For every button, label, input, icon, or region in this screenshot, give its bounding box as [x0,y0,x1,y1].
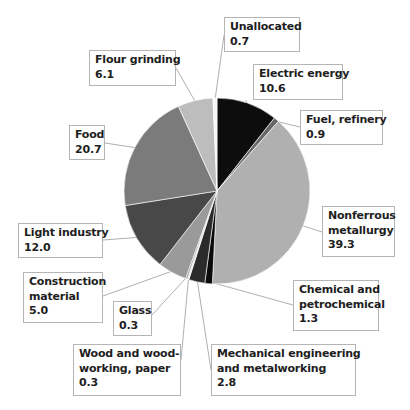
label-value: 0.9 [306,128,378,143]
label-text: petrochemical [299,298,374,313]
label-text: Flour grinding [95,53,171,68]
label-value: 20.7 [75,143,100,158]
leader-line-nonferrous-metallurgy [301,225,322,232]
label-value: 0.7 [230,35,295,50]
label-value: 0.3 [79,376,176,391]
label-text: Electric energy [259,67,338,82]
label-value: 5.0 [29,304,98,319]
label-text: metallurgy [328,224,390,239]
label-text: Food [75,128,100,143]
label-value: 0.3 [119,319,147,334]
leader-line-food [105,143,137,148]
label-construction-material: Constructionmaterial5.0 [23,272,103,323]
label-glass: Glass0.3 [113,301,152,336]
label-text: Light industry [24,226,98,241]
leader-line-mechanical-engineering-and-metalworking [197,280,211,370]
label-nonferrous-metallurgy: Nonferrousmetallurgy39.3 [322,206,395,257]
label-value: 10.6 [259,82,338,97]
label-text: and metalworking [217,362,351,377]
label-value: 2.8 [217,376,351,391]
label-text: Fuel, refinery [306,113,378,128]
leader-line-flour-grinding [176,68,196,103]
label-unallocated: Unallocated0.7 [224,17,300,52]
label-value: 6.1 [95,68,171,83]
label-text: Mechanical engineering [217,347,351,362]
leader-line-chemical-and-petrochemical [209,282,293,305]
pie-slices [124,98,310,284]
label-text: Wood and wood- [79,347,176,362]
leader-line-wood-and-wood-working-paper [181,277,189,360]
label-wood-and-wood-working-paper: Wood and wood-working, paper0.3 [73,344,181,396]
label-value: 1.3 [299,312,374,327]
label-value: 12.0 [24,241,98,256]
label-electric-energy: Electric energy10.6 [253,64,343,100]
label-text: Construction [29,275,98,290]
label-light-industry: Light industry12.0 [18,223,103,258]
label-flour-grinding: Flour grinding6.1 [89,50,176,86]
label-text: Nonferrous [328,209,390,224]
label-text: material [29,290,98,305]
label-mechanical-engineering-and-metalworking: Mechanical engineeringand metalworking2.… [211,344,356,396]
label-text: Unallocated [230,20,295,35]
label-food: Food20.7 [69,125,105,160]
leader-line-unallocated [215,35,224,100]
label-fuel-refinery: Fuel, refinery0.9 [300,110,383,145]
label-text: working, paper [79,362,176,377]
leader-line-glass [152,277,187,315]
label-text: Glass [119,304,147,319]
label-chemical-and-petrochemical: Chemical andpetrochemical1.3 [293,280,379,331]
label-text: Chemical and [299,283,374,298]
leader-line-light-industry [103,237,139,240]
label-value: 39.3 [328,238,390,253]
leader-line-construction-material [103,271,173,296]
